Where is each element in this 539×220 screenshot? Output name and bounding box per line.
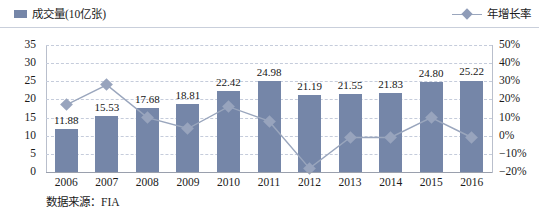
bar-value-label-2009: 18.81 [165, 90, 211, 101]
square-swatch-icon [14, 10, 27, 18]
left-axis-tick-label: 30 [6, 57, 36, 69]
bar-value-label-2014: 21.83 [368, 79, 414, 90]
legend-label-growth-rate: 年增长率 [487, 8, 531, 20]
line-marker-icon [452, 10, 482, 18]
right-axis-tick-label: 20% [499, 93, 537, 105]
x-axis-label-2012: 2012 [287, 176, 333, 188]
x-axis-label-2006: 2006 [43, 176, 89, 188]
left-axis-tick-label: 0 [6, 166, 36, 178]
x-axis-label-2013: 2013 [327, 176, 373, 188]
legend-divider [0, 27, 539, 28]
left-axis-tick-label: 15 [6, 112, 36, 124]
bar-value-label-2012: 21.19 [287, 81, 333, 92]
options-volume-chart: 成交量(10亿张) 年增长率 35302520151050 50%40%30%2… [0, 0, 539, 220]
bar-value-label-2015: 24.80 [408, 68, 454, 79]
right-axis-tick-label: −10% [499, 148, 537, 160]
source-note: 数据来源：FIA [46, 196, 120, 208]
right-axis-tick-label: 10% [499, 112, 537, 124]
bar-value-label-2008: 17.68 [124, 94, 170, 105]
x-axis-label-2010: 2010 [205, 176, 251, 188]
right-axis-tick-label: 30% [499, 75, 537, 87]
x-axis-label-2015: 2015 [408, 176, 454, 188]
chart-legend: 成交量(10亿张) 年增长率 [0, 6, 539, 28]
right-axis-tick-label: 50% [499, 39, 537, 51]
x-axis-label-2007: 2007 [84, 176, 130, 188]
legend-item-growth-rate: 年增长率 [452, 8, 531, 20]
x-axis-label-2016: 2016 [449, 176, 495, 188]
left-axis-tick-label: 25 [6, 75, 36, 87]
diamond-marker-icon [461, 8, 472, 19]
left-axis-tick-label: 20 [6, 93, 36, 105]
x-axis-label-2009: 2009 [165, 176, 211, 188]
bar-value-label-2006: 11.88 [43, 115, 89, 126]
x-axis-label-2008: 2008 [124, 176, 170, 188]
legend-label-volume: 成交量(10亿张) [32, 8, 106, 20]
left-axis-tick-label: 35 [6, 39, 36, 51]
x-axis-label-2014: 2014 [368, 176, 414, 188]
bar-value-label-2007: 15.53 [84, 102, 130, 113]
bar-value-label-2010: 22.42 [205, 77, 251, 88]
x-axis-label-2011: 2011 [246, 176, 292, 188]
x-axis-line [46, 172, 492, 173]
bar-value-label-2011: 24.98 [246, 67, 292, 78]
bar-value-label-2013: 21.55 [327, 80, 373, 91]
right-axis-line [492, 45, 493, 173]
right-axis-tick-label: 40% [499, 57, 537, 69]
left-axis-tick-label: 10 [6, 130, 36, 142]
bar-value-label-2016: 25.22 [449, 66, 495, 77]
right-axis-tick-label: 0% [499, 130, 537, 142]
left-axis-tick-label: 5 [6, 148, 36, 160]
legend-item-volume: 成交量(10亿张) [14, 8, 106, 20]
right-axis-tick-label: −20% [499, 166, 537, 178]
